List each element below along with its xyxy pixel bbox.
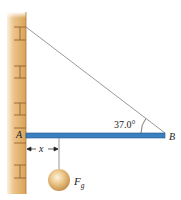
horizontal-beam (26, 133, 165, 138)
wall (7, 12, 26, 194)
hanging-weight (48, 169, 70, 191)
distance-x-label: x (38, 143, 44, 154)
point-b-label: B (169, 131, 175, 142)
support-cable (26, 27, 165, 133)
angle-arc (141, 119, 146, 133)
angle-label: 37.0° (114, 119, 136, 130)
point-a-label: A (15, 129, 23, 140)
gravity-force-label: Fg (73, 175, 85, 190)
static-equilibrium-diagram: 37.0° A B x Fg (0, 0, 181, 200)
